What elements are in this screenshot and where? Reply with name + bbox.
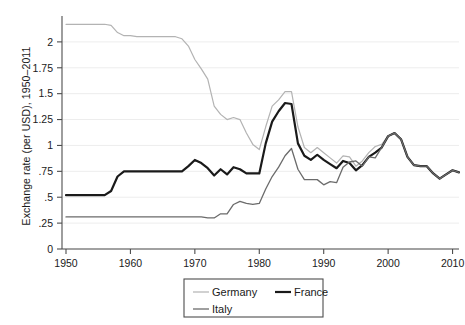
chart-legend: GermanyFranceItaly: [184, 279, 328, 317]
axes: [62, 16, 459, 249]
y-tick-label: 1: [47, 139, 53, 151]
y-tick-label: .25: [38, 217, 53, 229]
y-tick-label: 1.75: [33, 62, 54, 74]
y-axis-title: Exchange rate (per USD), 1950–2011: [20, 16, 32, 256]
x-axis-ticks: 1950196019701980199020002010: [54, 249, 464, 269]
x-tick-label: 2000: [376, 257, 400, 269]
x-tick-label: 1990: [312, 257, 336, 269]
legend-label-france: France: [294, 286, 328, 298]
chart-canvas: 0.25.5.7511.251.51.752 19501960197019801…: [0, 0, 465, 325]
y-tick-label: .5: [44, 191, 53, 203]
y-axis-ticks: 0.25.5.7511.251.51.752: [33, 36, 62, 255]
x-tick-label: 1970: [183, 257, 207, 269]
x-tick-label: 1980: [248, 257, 272, 269]
legend-label-germany: Germany: [212, 286, 258, 298]
x-tick-label: 1960: [119, 257, 143, 269]
x-tick-label: 1950: [54, 257, 78, 269]
y-tick-label: 1.25: [33, 113, 54, 125]
exchange-rate-line-chart: Exchange rate (per USD), 1950–2011 0.25.…: [0, 0, 465, 325]
series-line-france: [66, 103, 459, 195]
y-tick-label: 2: [47, 36, 53, 48]
legend-border: [184, 279, 323, 317]
data-series-layer: [66, 24, 459, 218]
y-tick-label: 1.5: [38, 87, 53, 99]
y-tick-label: .75: [38, 165, 53, 177]
x-tick-label: 2010: [441, 257, 465, 269]
legend-label-italy: Italy: [212, 303, 233, 315]
y-tick-label: 0: [47, 243, 53, 255]
